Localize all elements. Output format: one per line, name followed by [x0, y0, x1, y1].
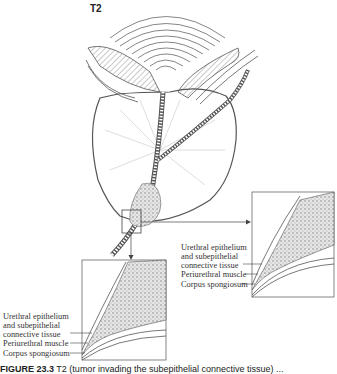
right-label-corpus-spongiosum: Corpus spongiosum: [181, 280, 248, 290]
arrow-right-icon: [246, 220, 251, 225]
left-label-periurethral-muscle: Periurethral muscle: [3, 339, 68, 349]
prostate-fibers: [105, 100, 225, 185]
caption-text: T2 (tumor invading the subepithelial con…: [54, 364, 283, 374]
right-label-periurethral-muscle: Periurethral muscle: [181, 270, 246, 280]
figure-caption: FIGURE 23.3 T2 (tumor invading the subep…: [0, 364, 284, 374]
arrow-down-icon: [129, 255, 134, 260]
left-label-corpus-spongiosum: Corpus spongiosum: [3, 349, 70, 359]
caption-figure-number: FIGURE 23.3: [0, 364, 54, 374]
bottom-left-inset: [82, 260, 166, 360]
right-inset: [252, 192, 334, 297]
